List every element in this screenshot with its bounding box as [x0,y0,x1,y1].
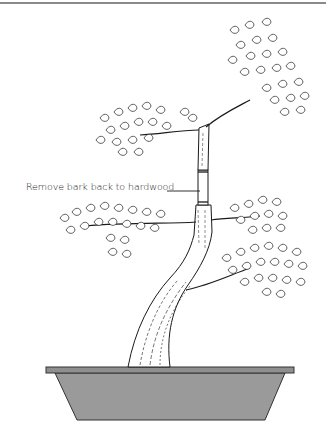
foliage-middle-right [230,196,287,233]
foliage-lower-right [222,242,307,297]
bonsai-figure: Remove bark back to hardwood [0,0,330,439]
bonsai-pot [46,367,294,420]
callout-label: Remove bark back to hardwood [26,181,174,192]
foliage-middle-left [60,202,165,257]
foliage-upper-left [96,102,197,155]
bonsai-trunk [128,124,212,367]
bonsai-drawing [0,0,330,439]
foliage-top-crown [222,18,309,115]
